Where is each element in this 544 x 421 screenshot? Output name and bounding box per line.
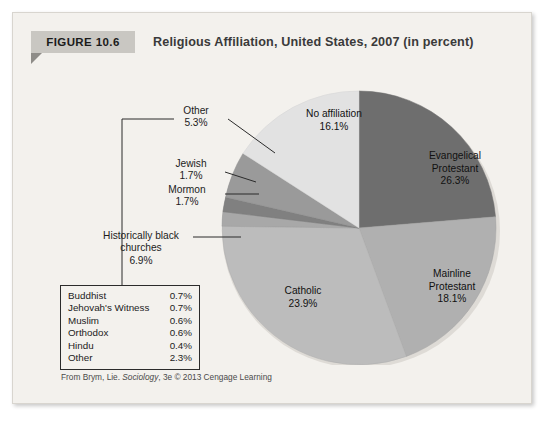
callout-jewish-pct: 1.7%	[161, 170, 221, 182]
legend-value: 0.7%	[170, 302, 192, 314]
pie-label-mainline-line2: Protestant	[429, 281, 475, 292]
callout-hbc-line1: Historically black	[103, 230, 179, 241]
legend-value: 0.6%	[170, 315, 192, 327]
callout-mormon-pct: 1.7%	[153, 196, 221, 208]
legend-value: 0.7%	[170, 290, 192, 302]
pie-label-mainline-line1: Mainline	[433, 268, 471, 279]
legend-row: Other 2.3%	[68, 352, 192, 364]
callout-other-name: Other	[183, 105, 208, 116]
source-attribution: From Brym, Lie. Sociology, 3e © 2013 Cen…	[61, 372, 272, 382]
legend-row: Buddhist 0.7%	[68, 290, 192, 302]
callout-jewish: Jewish 1.7%	[161, 158, 221, 183]
pie-label-mainline-pct: 18.1%	[438, 293, 467, 304]
callout-hbc-pct: 6.9%	[92, 255, 190, 267]
pie-label-no-affiliation: No affiliation 16.1%	[279, 108, 389, 133]
figure-tag-fold-corner	[31, 53, 42, 64]
legend-label: Orthodox	[68, 327, 108, 339]
legend-label: Buddhist	[68, 290, 106, 302]
legend-label: Muslim	[68, 315, 99, 327]
pie-label-catholic-pct: 23.9%	[289, 298, 318, 309]
callout-mormon-name: Mormon	[168, 184, 205, 195]
legend-row: Orthodox 0.6%	[68, 327, 192, 339]
source-after: , 3e © 2013 Cengage Learning	[158, 372, 272, 382]
legend-value: 0.6%	[170, 327, 192, 339]
other-breakdown-legend: Buddhist 0.7% Jehovah's Witness 0.7% Mus…	[60, 285, 200, 370]
pie-label-evangelical-line1: Evangelical	[429, 150, 481, 161]
pie-label-no-affiliation-pct: 16.1%	[320, 121, 349, 132]
figure-number-tag: FIGURE 10.6	[31, 31, 135, 53]
pie-label-mainline-protestant: Mainline Protestant 18.1%	[396, 268, 508, 306]
source-title-italic: Sociology	[122, 372, 158, 382]
pie-label-evangelical-pct: 26.3%	[441, 175, 470, 186]
legend-label: Other	[68, 352, 93, 364]
callout-mormon: Mormon 1.7%	[153, 184, 221, 209]
legend-row: Hindu 0.4%	[68, 340, 192, 352]
legend-label: Jehovah's Witness	[68, 302, 149, 314]
legend-row: Jehovah's Witness 0.7%	[68, 302, 192, 314]
source-before: From Brym, Lie.	[61, 372, 122, 382]
legend-value: 0.4%	[170, 340, 192, 352]
callout-hbc-line2: churches	[92, 242, 190, 254]
legend-value: 2.3%	[170, 352, 192, 364]
callout-jewish-name: Jewish	[175, 158, 206, 169]
pie-label-evangelical-protestant: Evangelical Protestant 26.3%	[399, 150, 511, 188]
callout-other: Other 5.3%	[165, 105, 227, 130]
legend-label: Hindu	[68, 340, 94, 352]
callout-historically-black-churches: Historically black churches 6.9%	[92, 230, 190, 267]
figure-header: FIGURE 10.6 Religious Affiliation, Unite…	[13, 31, 531, 65]
pie-label-no-affiliation-name: No affiliation	[306, 108, 362, 119]
callout-other-pct: 5.3%	[165, 117, 227, 129]
pie-label-evangelical-line2: Protestant	[432, 163, 478, 174]
pie-label-catholic-name: Catholic	[285, 285, 322, 296]
legend-row: Muslim 0.6%	[68, 315, 192, 327]
figure-title: Religious Affiliation, United States, 20…	[153, 31, 474, 53]
pie-label-catholic: Catholic 23.9%	[251, 285, 355, 310]
figure-card: FIGURE 10.6 Religious Affiliation, Unite…	[12, 12, 532, 404]
